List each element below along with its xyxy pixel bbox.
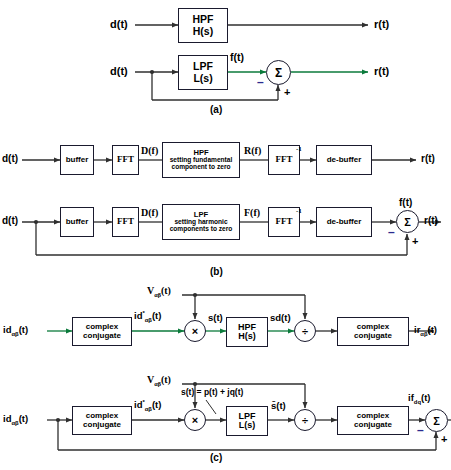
panel-b-row2-ft-label: f(t) xyxy=(399,198,412,208)
panel-b-row2-ifft-label: FFT xyxy=(276,217,293,226)
panel-b-summer[interactable]: Σ xyxy=(396,210,419,233)
panel-c-row2-conj-out-label: id*αβ(t) xyxy=(134,400,161,413)
panel-a-hpf-line1: HPF xyxy=(193,14,214,25)
panel-b-row1-df-label: D(f) xyxy=(141,146,158,156)
panel-c-row1-conj2-line2: conjugate xyxy=(354,332,392,340)
panel-c-row2-conjugate-1[interactable]: complex conjugate xyxy=(72,406,132,435)
figure-canvas: HPF H(s) d(t) r(t) LPF L(s) d(t) f(t) Σ … xyxy=(0,0,451,470)
panel-c-row1-input-text: idαβ(t) xyxy=(3,324,28,335)
panel-c-row1-s-label: s(t) xyxy=(208,313,223,323)
panel-c-row1-multiplier[interactable]: × xyxy=(184,320,206,342)
panel-c-row1-conj-out-label: id*αβ(t) xyxy=(134,311,161,324)
panel-c-row2-s-equation: s(t) = p(t) + jq(t) xyxy=(181,388,243,397)
panel-a-row2-input-label: d(t) xyxy=(110,66,128,77)
panel-a-lpf-line1: LPF xyxy=(193,61,213,72)
panel-b-row1-fft-label: FFT xyxy=(117,155,134,164)
panel-c-row1-hpf-block[interactable]: HPF H(s) xyxy=(226,317,268,347)
panel-b-row2-ifft-exponent: -1 xyxy=(296,208,302,215)
panel-b-row2-fft[interactable]: FFT xyxy=(112,207,139,237)
panel-b-row2-buffer-label: buffer xyxy=(66,218,89,226)
panel-b-row1-hpf-filter[interactable]: HPF setting fundamental component to zer… xyxy=(162,142,240,178)
panel-b-row2-fft-label: FFT xyxy=(117,217,134,226)
panel-b-row1-ifft-label: FFT xyxy=(276,155,293,164)
panel-c-plus-sign: + xyxy=(441,434,447,445)
panel-c-row1-conjugate-2[interactable]: complex conjugate xyxy=(337,317,409,346)
panel-c-row1-output-label: irαβ(t) xyxy=(414,325,437,338)
panel-b-row2-buffer[interactable]: buffer xyxy=(60,207,94,237)
panel-a-lpf-block[interactable]: LPF L(s) xyxy=(178,55,228,90)
panel-c-row2-divide-symbol: ÷ xyxy=(302,414,308,426)
panel-b-caption: (b) xyxy=(210,266,223,277)
panel-c-row2-sbar-label: s̄(t) xyxy=(271,401,286,411)
panel-c-row2-summer-symbol: Σ xyxy=(433,415,440,427)
panel-c-row2-lpf-block[interactable]: LPF L(s) xyxy=(226,406,268,436)
panel-a-row1-output-label: r(t) xyxy=(374,19,389,30)
panel-a-minus-sign: – xyxy=(257,76,264,88)
panel-b-row1-input-label: d(t) xyxy=(2,154,18,164)
panel-a-row2-output-label: r(t) xyxy=(374,66,389,77)
panel-b-plus-sign: + xyxy=(412,236,418,247)
panel-b-row1-debuffer-label: de-buffer xyxy=(327,156,362,164)
panel-c-row1-sd-label: sd(t) xyxy=(270,313,291,323)
panel-b-row2-lpf-filter[interactable]: LPF setting harmonic components to zero xyxy=(162,204,240,240)
panel-c-row2-lpf-line2: L(s) xyxy=(239,421,256,430)
panel-b-row1-ifft-exponent: -1 xyxy=(296,146,302,153)
panel-c-row1-input-label: idαβ(t) xyxy=(3,325,28,338)
panel-a-hpf-block[interactable]: HPF H(s) xyxy=(178,8,228,43)
panel-c-row2-multiplier[interactable]: × xyxy=(184,409,206,431)
panel-c-minus-sign: – xyxy=(417,424,424,436)
panel-c-row1-hpf-line2: H(s) xyxy=(238,332,256,341)
panel-b-row2-filter-line3: components to zero xyxy=(170,226,233,233)
panel-b-row2-output-label: r(t) xyxy=(424,216,438,226)
panel-c-row2-conjugate-2[interactable]: complex conjugate xyxy=(337,406,409,435)
panel-c-row1-conj1-line2: conjugate xyxy=(83,332,121,340)
panel-c-row1-divide-symbol: ÷ xyxy=(302,325,308,337)
panel-b-row1-buffer[interactable]: buffer xyxy=(60,145,94,175)
panel-c-row1-conjugate-1[interactable]: complex conjugate xyxy=(72,317,132,346)
panel-c-row1-multiply-symbol: × xyxy=(192,325,198,337)
panel-b-row2-ff-label: F(f) xyxy=(244,208,260,218)
panel-b-row1-fft[interactable]: FFT xyxy=(112,145,139,175)
panel-b-row2-df-label: D(f) xyxy=(141,208,158,218)
panel-a-plus-sign: + xyxy=(284,87,290,98)
panel-b-row1-debuffer[interactable]: de-buffer xyxy=(316,145,372,175)
panel-a-summer-symbol: Σ xyxy=(275,66,282,80)
panel-c-row1-v-label: Vαβ(t) xyxy=(147,286,171,298)
panel-b-row2-input-label: d(t) xyxy=(2,216,18,226)
panel-a-hpf-line2: H(s) xyxy=(193,26,213,37)
panel-a-row1-input-label: d(t) xyxy=(110,19,128,30)
panel-c-row2-conj2-line2: conjugate xyxy=(354,421,392,429)
panel-c-row2-input-label: idαβ(t) xyxy=(3,414,28,427)
panel-a-summer[interactable]: Σ xyxy=(266,60,291,85)
panel-b-row2-debuffer-label: de-buffer xyxy=(327,218,362,226)
panel-a-ft-label: f(t) xyxy=(230,52,244,63)
panel-b-minus-sign: – xyxy=(388,226,395,238)
panel-a-caption: (a) xyxy=(210,104,222,115)
panel-c-row2-conj1-line2: conjugate xyxy=(83,421,121,429)
panel-b-summer-symbol: Σ xyxy=(404,216,411,228)
panel-b-row1-rf-label: R(f) xyxy=(244,146,261,156)
panel-b-row2-debuffer[interactable]: de-buffer xyxy=(316,207,372,237)
panel-a-lpf-line2: L(s) xyxy=(193,73,212,84)
panel-b-row1-buffer-label: buffer xyxy=(66,156,89,164)
panel-c-row1-divider[interactable]: ÷ xyxy=(294,320,316,342)
panel-c-row2-v-label: Vαβ(t) xyxy=(147,375,171,387)
panel-c-row2-summer[interactable]: Σ xyxy=(425,409,448,432)
panel-c-row2-if-label: ifdq(t) xyxy=(408,393,431,406)
panel-c-caption: (c) xyxy=(210,452,222,463)
panel-c-row2-multiply-symbol: × xyxy=(192,414,198,426)
panel-b-row1-filter-line3: component to zero xyxy=(172,164,231,171)
panel-c-row2-divider[interactable]: ÷ xyxy=(294,409,316,431)
panel-b-row1-output-label: r(t) xyxy=(421,154,435,164)
